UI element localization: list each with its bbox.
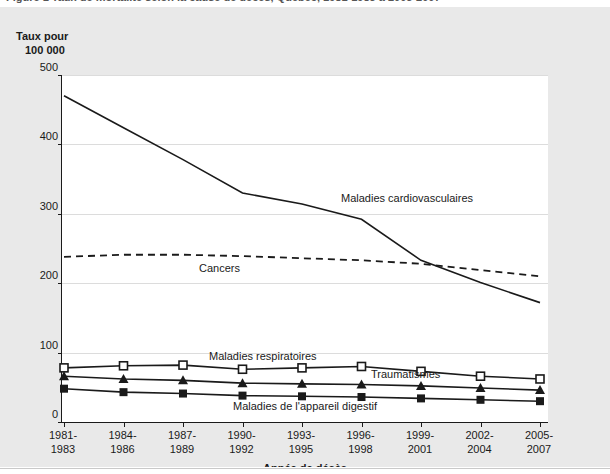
- series-marker-filled-square: [60, 385, 68, 393]
- x-tick-label: 1987-1989: [152, 428, 212, 456]
- series-annotation: Maladies cardiovasculaires: [341, 192, 473, 204]
- x-tick-label: 1999-2001: [390, 428, 450, 456]
- x-tick-line1: 1984-: [93, 428, 153, 442]
- y-tick-label: 100: [18, 339, 58, 351]
- x-tick-line2: 2004: [450, 442, 510, 456]
- y-tick-label: 500: [18, 61, 58, 73]
- x-tick-line1: 1987-: [152, 428, 212, 442]
- series-marker-filled-square: [536, 397, 544, 405]
- x-tick-line2: 1995: [271, 442, 331, 456]
- y-tick-label: 400: [18, 130, 58, 142]
- series-marker-open-square: [120, 362, 128, 370]
- series-marker-open-square: [179, 361, 187, 369]
- x-tick-line1: 1993-: [271, 428, 331, 442]
- x-tick-line2: 1998: [331, 442, 391, 456]
- y-tick-mark: [58, 422, 62, 423]
- x-tick-mark: [64, 422, 65, 427]
- y-axis-title: Taux pour 100 000: [16, 29, 68, 57]
- x-tick-label: 2005-2007: [509, 428, 569, 456]
- y-axis-title-line1: Taux pour: [16, 30, 68, 42]
- series-marker-filled-square: [239, 392, 247, 400]
- x-tick-line1: 2002-: [450, 428, 510, 442]
- x-tick-line2: 2001: [390, 442, 450, 456]
- bottom-divider: [0, 468, 610, 469]
- x-tick-mark: [421, 422, 422, 427]
- x-tick-line1: 1990-: [212, 428, 272, 442]
- cut-off-caption-strip: Figure 1 Taux de mortalité selon la caus…: [0, 0, 610, 7]
- x-tick-line2: 1989: [152, 442, 212, 456]
- x-tick-line2: 1986: [93, 442, 153, 456]
- y-tick-label: 0: [18, 408, 58, 420]
- series-marker-open-square: [536, 375, 544, 383]
- series-annotation: Cancers: [199, 262, 240, 274]
- y-tick-label: 200: [18, 269, 58, 281]
- x-tick-line2: 1983: [33, 442, 93, 456]
- series-annotation: Traumatismes: [371, 368, 440, 380]
- x-tick-mark: [183, 422, 184, 427]
- x-tick-mark: [540, 422, 541, 427]
- y-tick-label: 300: [18, 200, 58, 212]
- x-tick-label: 1996-1998: [331, 428, 391, 456]
- chart-sheet: Taux pour 100 000 0100200300400500 1981-…: [0, 7, 610, 467]
- x-tick-label: 1981-1983: [33, 428, 93, 456]
- series-marker-open-square: [239, 365, 247, 373]
- series-marker-filled-square: [179, 390, 187, 398]
- x-tick-line1: 2005-: [509, 428, 569, 442]
- x-tick-mark: [481, 422, 482, 427]
- x-tick-line2: 2007: [509, 442, 569, 456]
- series-marker-open-square: [298, 364, 306, 372]
- series-marker-open-square: [358, 362, 366, 370]
- x-tick-label: 1990-1992: [212, 428, 272, 456]
- x-tick-label: 2002-2004: [450, 428, 510, 456]
- series-annotation: Maladies de l'appareil digestif: [233, 400, 377, 412]
- x-tick-label: 1984-1986: [93, 428, 153, 456]
- series-marker-filled-square: [120, 388, 128, 396]
- series-marker-filled-square: [417, 394, 425, 402]
- series-marker-open-square: [477, 372, 485, 380]
- x-tick-line2: 1992: [212, 442, 272, 456]
- plot-area: Maladies cardiovasculairesCancersMaladie…: [61, 75, 548, 423]
- x-tick-line1: 1981-: [33, 428, 93, 442]
- series-line: [64, 255, 540, 277]
- x-tick-mark: [362, 422, 363, 427]
- series-lines: [62, 75, 548, 422]
- x-tick-label: 1993-1995: [271, 428, 331, 456]
- series-annotation: Maladies respiratoires: [209, 350, 317, 362]
- series-marker-filled-square: [477, 396, 485, 404]
- x-tick-line1: 1996-: [331, 428, 391, 442]
- series-marker-open-square: [60, 364, 68, 372]
- y-axis-title-line2: 100 000: [16, 43, 68, 57]
- x-tick-mark: [302, 422, 303, 427]
- x-tick-line1: 1999-: [390, 428, 450, 442]
- x-tick-mark: [243, 422, 244, 427]
- figure-caption: Figure 1 Taux de mortalité selon la caus…: [6, 0, 441, 3]
- x-tick-mark: [124, 422, 125, 427]
